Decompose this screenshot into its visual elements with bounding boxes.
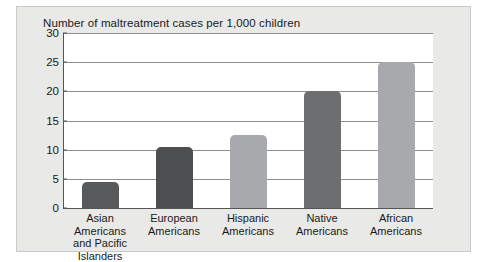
- x-label-line: and Pacific: [63, 237, 137, 250]
- y-tick-mark-0: [63, 208, 67, 209]
- x-label-2: HispanicAmericans: [211, 212, 285, 237]
- y-tick-mark-15: [63, 120, 67, 121]
- y-tick-mark-30: [63, 33, 67, 34]
- y-tick-label-0: 0: [37, 202, 59, 214]
- x-label-line: Americans: [137, 225, 211, 238]
- y-tick-mark-25: [63, 62, 67, 63]
- gridline-25: [63, 62, 433, 63]
- y-tick-mark-10: [63, 149, 67, 150]
- x-label-line: Americans: [285, 225, 359, 238]
- x-label-1: EuropeanAmericans: [137, 212, 211, 237]
- x-axis-category-labels: Asian Americansand PacificIslandersEurop…: [63, 212, 433, 254]
- y-tick-label-10: 10: [37, 144, 59, 156]
- gridline-0: [63, 208, 433, 209]
- chart-title: Number of maltreatment cases per 1,000 c…: [43, 17, 300, 29]
- x-label-line: Islanders: [63, 250, 137, 262]
- x-label-line: Native: [285, 212, 359, 225]
- y-tick-label-5: 5: [37, 173, 59, 185]
- x-label-line: European: [137, 212, 211, 225]
- bar-3: [304, 91, 341, 208]
- x-label-line: Asian Americans: [63, 212, 137, 237]
- y-tick-label-25: 25: [37, 56, 59, 68]
- bar-0: [82, 182, 119, 208]
- x-label-line: African: [359, 212, 433, 225]
- y-tick-mark-20: [63, 91, 67, 92]
- y-tick-label-20: 20: [37, 85, 59, 97]
- x-label-4: AfricanAmericans: [359, 212, 433, 237]
- y-tick-label-30: 30: [37, 27, 59, 39]
- y-axis-line: [63, 33, 64, 209]
- gridline-30: [63, 33, 433, 34]
- x-label-0: Asian Americansand PacificIslanders: [63, 212, 137, 262]
- plot-area: [63, 33, 433, 208]
- y-axis-tick-labels: 051015202530: [33, 33, 59, 208]
- x-label-line: Americans: [359, 225, 433, 238]
- bar-1: [156, 147, 193, 208]
- x-label-3: NativeAmericans: [285, 212, 359, 237]
- bar-4: [378, 62, 415, 208]
- x-label-line: Americans: [211, 225, 285, 238]
- y-tick-label-15: 15: [37, 115, 59, 127]
- chart-figure-panel: Number of maltreatment cases per 1,000 c…: [16, 6, 471, 252]
- bar-2: [230, 135, 267, 208]
- x-label-line: Hispanic: [211, 212, 285, 225]
- y-tick-mark-5: [63, 178, 67, 179]
